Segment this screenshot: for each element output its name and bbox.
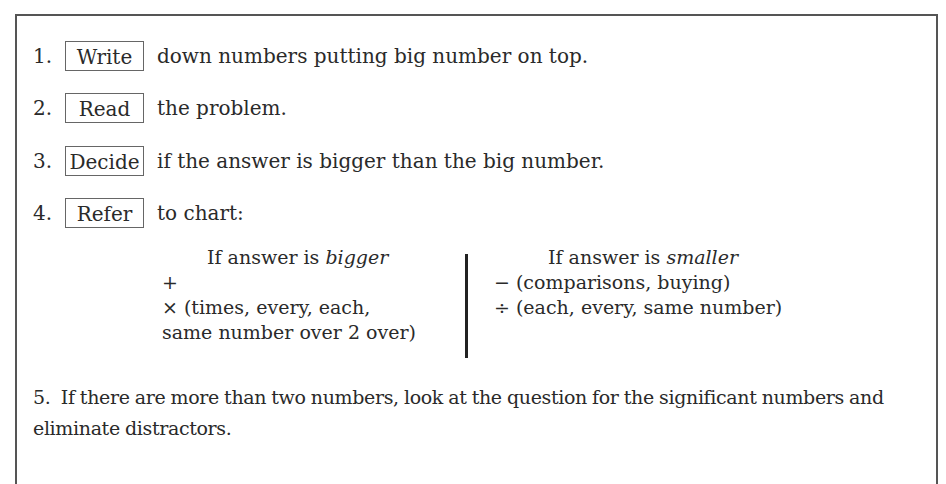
step-number: 3. [33, 149, 65, 173]
step-keyword-box: Refer [65, 198, 144, 228]
step-number: 1. [33, 44, 65, 68]
step-keyword-box: Read [65, 93, 144, 123]
step-4: 4. Refer to chart: [33, 197, 244, 229]
step-text: If there are more than two numbers, look… [33, 386, 884, 439]
step-text: to chart: [157, 201, 244, 225]
step-3: 3. Decide if the answer is bigger than t… [33, 145, 604, 177]
step-2: 2. Read the problem. [33, 92, 287, 124]
step-number: 2. [33, 96, 65, 120]
step-text: the problem. [157, 96, 287, 120]
step-5: 5. If there are more than two numbers, l… [33, 382, 933, 444]
step-number: 5. [33, 386, 50, 408]
step-keyword-box: Write [65, 41, 144, 71]
step-text: down numbers putting big number on top. [157, 44, 588, 68]
step-1: 1. Write down numbers putting big number… [33, 40, 588, 72]
step-number: 4. [33, 201, 65, 225]
step-keyword-box: Decide [65, 146, 144, 176]
step-text: if the answer is bigger than the big num… [157, 149, 604, 173]
